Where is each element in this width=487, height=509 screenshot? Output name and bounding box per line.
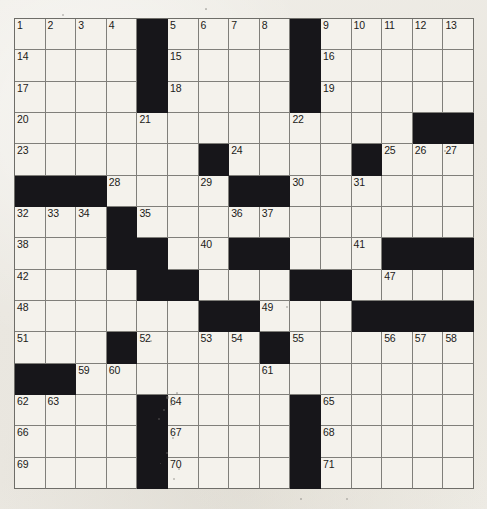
- grid-cell[interactable]: [413, 176, 444, 207]
- grid-cell[interactable]: [443, 395, 474, 426]
- grid-cell[interactable]: 59: [76, 364, 107, 395]
- grid-cell[interactable]: 16: [321, 50, 352, 81]
- grid-cell[interactable]: 3: [76, 19, 107, 50]
- grid-cell[interactable]: 64: [168, 395, 199, 426]
- grid-cell[interactable]: [290, 364, 321, 395]
- grid-cell[interactable]: [260, 113, 291, 144]
- grid-cell[interactable]: [352, 364, 383, 395]
- grid-cell[interactable]: 34: [76, 207, 107, 238]
- grid-cell[interactable]: [168, 207, 199, 238]
- grid-cell[interactable]: [76, 238, 107, 269]
- grid-cell[interactable]: [321, 364, 352, 395]
- grid-cell[interactable]: [260, 144, 291, 175]
- grid-cell[interactable]: 17: [15, 82, 46, 113]
- grid-cell[interactable]: 49: [260, 301, 291, 332]
- grid-cell[interactable]: [382, 207, 413, 238]
- grid-cell[interactable]: [352, 82, 383, 113]
- grid-cell[interactable]: 68: [321, 426, 352, 457]
- grid-cell[interactable]: [199, 364, 230, 395]
- grid-cell[interactable]: 52: [137, 332, 168, 363]
- grid-cell[interactable]: [199, 395, 230, 426]
- grid-cell[interactable]: 55: [290, 332, 321, 363]
- grid-cell[interactable]: [199, 207, 230, 238]
- grid-cell[interactable]: 19: [321, 82, 352, 113]
- grid-cell[interactable]: 66: [15, 426, 46, 457]
- grid-cell[interactable]: [46, 82, 77, 113]
- grid-cell[interactable]: [76, 144, 107, 175]
- grid-cell[interactable]: [290, 301, 321, 332]
- grid-cell[interactable]: 27: [443, 144, 474, 175]
- grid-cell[interactable]: [229, 270, 260, 301]
- grid-cell[interactable]: [107, 144, 138, 175]
- grid-cell[interactable]: [229, 395, 260, 426]
- grid-cell[interactable]: [321, 332, 352, 363]
- grid-cell[interactable]: [46, 426, 77, 457]
- crossword-grid[interactable]: 1234567891011121314151617181920212223242…: [14, 18, 474, 489]
- grid-cell[interactable]: [413, 270, 444, 301]
- grid-cell[interactable]: [290, 144, 321, 175]
- grid-cell[interactable]: [107, 395, 138, 426]
- grid-cell[interactable]: 37: [260, 207, 291, 238]
- grid-cell[interactable]: 36: [229, 207, 260, 238]
- grid-cell[interactable]: [46, 113, 77, 144]
- grid-cell[interactable]: [46, 50, 77, 81]
- grid-cell[interactable]: 28: [107, 176, 138, 207]
- grid-cell[interactable]: [199, 113, 230, 144]
- grid-cell[interactable]: 62: [15, 395, 46, 426]
- grid-cell[interactable]: [76, 426, 107, 457]
- grid-cell[interactable]: [76, 82, 107, 113]
- grid-cell[interactable]: 61: [260, 364, 291, 395]
- grid-cell[interactable]: [46, 458, 77, 489]
- grid-cell[interactable]: [76, 458, 107, 489]
- grid-cell[interactable]: 30: [290, 176, 321, 207]
- grid-cell[interactable]: 48: [15, 301, 46, 332]
- grid-cell[interactable]: [46, 301, 77, 332]
- grid-cell[interactable]: [229, 426, 260, 457]
- grid-cell[interactable]: [260, 395, 291, 426]
- grid-cell[interactable]: 31: [352, 176, 383, 207]
- grid-cell[interactable]: 51: [15, 332, 46, 363]
- grid-cell[interactable]: [352, 395, 383, 426]
- grid-cell[interactable]: [107, 82, 138, 113]
- grid-cell[interactable]: 42: [15, 270, 46, 301]
- grid-cell[interactable]: [46, 144, 77, 175]
- grid-cell[interactable]: [199, 82, 230, 113]
- grid-cell[interactable]: 4: [107, 19, 138, 50]
- grid-cell[interactable]: [137, 176, 168, 207]
- grid-cell[interactable]: [137, 144, 168, 175]
- grid-cell[interactable]: [413, 82, 444, 113]
- grid-cell[interactable]: [321, 144, 352, 175]
- grid-cell[interactable]: [382, 113, 413, 144]
- grid-cell[interactable]: 26: [413, 144, 444, 175]
- grid-cell[interactable]: 20: [15, 113, 46, 144]
- grid-cell[interactable]: [352, 332, 383, 363]
- grid-cell[interactable]: [443, 207, 474, 238]
- grid-cell[interactable]: 6: [199, 19, 230, 50]
- grid-cell[interactable]: 15: [168, 50, 199, 81]
- grid-cell[interactable]: [229, 113, 260, 144]
- grid-cell[interactable]: 63: [46, 395, 77, 426]
- grid-cell[interactable]: 7: [229, 19, 260, 50]
- grid-cell[interactable]: 67: [168, 426, 199, 457]
- grid-cell[interactable]: [290, 238, 321, 269]
- grid-cell[interactable]: [413, 364, 444, 395]
- grid-cell[interactable]: 32: [15, 207, 46, 238]
- grid-cell[interactable]: [382, 395, 413, 426]
- grid-cell[interactable]: 25: [382, 144, 413, 175]
- grid-cell[interactable]: [168, 364, 199, 395]
- grid-cell[interactable]: 24: [229, 144, 260, 175]
- grid-cell[interactable]: [76, 50, 107, 81]
- grid-cell[interactable]: [260, 458, 291, 489]
- grid-cell[interactable]: [443, 364, 474, 395]
- grid-cell[interactable]: [137, 301, 168, 332]
- grid-cell[interactable]: 5: [168, 19, 199, 50]
- grid-cell[interactable]: [352, 426, 383, 457]
- grid-cell[interactable]: [76, 113, 107, 144]
- grid-cell[interactable]: [382, 458, 413, 489]
- grid-cell[interactable]: [413, 426, 444, 457]
- grid-cell[interactable]: 22: [290, 113, 321, 144]
- grid-cell[interactable]: 54: [229, 332, 260, 363]
- grid-cell[interactable]: 65: [321, 395, 352, 426]
- grid-cell[interactable]: [107, 426, 138, 457]
- grid-cell[interactable]: [382, 50, 413, 81]
